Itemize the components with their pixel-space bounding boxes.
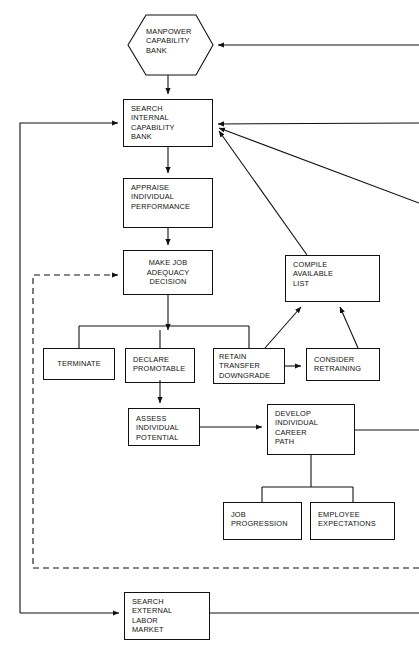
node-search-internal-capability-bank[interactable]: SEARCH INTERNAL CAPABILITY BANK — [123, 99, 213, 147]
edge-retain-to-compile-list — [265, 307, 301, 348]
node-compile-available-list[interactable]: COMPILE AVAILABLE LIST — [285, 255, 380, 302]
node-retain-transfer-downgrade[interactable]: RETAIN TRANSFER DOWNGRADE — [213, 348, 285, 384]
edge-external-to-search-internal-diagonal-far — [219, 128, 419, 203]
node-develop-individual-career-path[interactable]: DEVELOP INDIVIDUAL CAREER PATH — [267, 404, 355, 455]
edge-external-to-search-internal-horizontal — [218, 123, 419, 124]
node-appraise-individual-performance[interactable]: APPRAISE INDIVIDUAL PERFORMANCE — [123, 178, 213, 228]
node-search-external-labor-market[interactable]: SEARCH EXTERNAL LABOR MARKET — [124, 592, 210, 640]
flowchart-canvas: MANPOWER CAPABILITY BANK SEARCH INTERNAL… — [0, 0, 419, 656]
node-make-job-adequacy-decision[interactable]: MAKE JOB ADEQUACY DECISION — [123, 250, 213, 295]
edge-compile-list-to-search-internal — [219, 131, 307, 255]
node-assess-individual-potential[interactable]: ASSESS INDIVIDUAL POTENTIAL — [128, 408, 200, 446]
node-manpower-capability-bank-label: MANPOWER CAPABILITY BANK — [146, 27, 210, 55]
node-declare-promotable[interactable]: DECLARE PROMOTABLE — [125, 348, 195, 383]
node-employee-expectations[interactable]: EMPLOYEE EXPECTATIONS — [310, 502, 395, 540]
node-terminate[interactable]: TERMINATE — [43, 348, 115, 380]
node-job-progression[interactable]: JOB PROGRESSION — [223, 502, 302, 540]
node-consider-retraining[interactable]: CONSIDER RETRAINING — [306, 348, 380, 381]
edge-consider-retraining-to-compile-list — [340, 307, 358, 348]
